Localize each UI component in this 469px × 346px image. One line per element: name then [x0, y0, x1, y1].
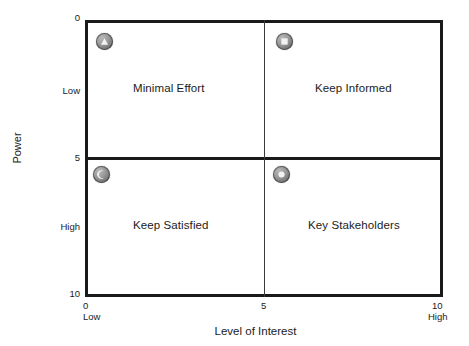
quadrant-label-minimal-effort: Minimal Effort [133, 82, 204, 94]
x-tick-label-0: 0 [83, 300, 88, 311]
marker-crescent-glyph-icon [97, 170, 106, 179]
quadrant-label-key-stakeholders: Key Stakeholders [308, 219, 400, 231]
x-tick-sublabel-low: Low [83, 311, 100, 322]
quadrant-label-keep-informed: Keep Informed [315, 82, 392, 94]
vertical-divider-line [264, 20, 265, 297]
y-axis-title: Power [11, 118, 23, 178]
marker-dot-glyph-icon [277, 170, 286, 179]
stakeholder-marker-icon[interactable] [96, 33, 113, 50]
x-tick-label-5: 5 [261, 300, 266, 311]
stakeholder-marker-icon[interactable] [276, 33, 293, 50]
marker-square-glyph-icon [280, 37, 289, 46]
x-tick-sublabel-high: High [428, 311, 448, 322]
marker-triangle-glyph-icon [100, 37, 109, 46]
quadrant-label-keep-satisfied: Keep Satisfied [133, 219, 209, 231]
y-tick-label-0: 0 [75, 12, 80, 23]
x-axis-title: Level of Interest [0, 325, 469, 337]
y-tick-label-10: 10 [69, 288, 80, 299]
y-tick-label-high: High [60, 221, 80, 232]
stakeholder-marker-icon[interactable] [273, 166, 290, 183]
stakeholder-marker-icon[interactable] [93, 166, 110, 183]
stakeholder-matrix-chart: Minimal Effort Keep Informed Keep Satisf… [0, 0, 469, 346]
y-tick-label-5: 5 [75, 152, 80, 163]
y-tick-label-low: Low [63, 85, 80, 96]
x-tick-label-10: 10 [432, 300, 443, 311]
